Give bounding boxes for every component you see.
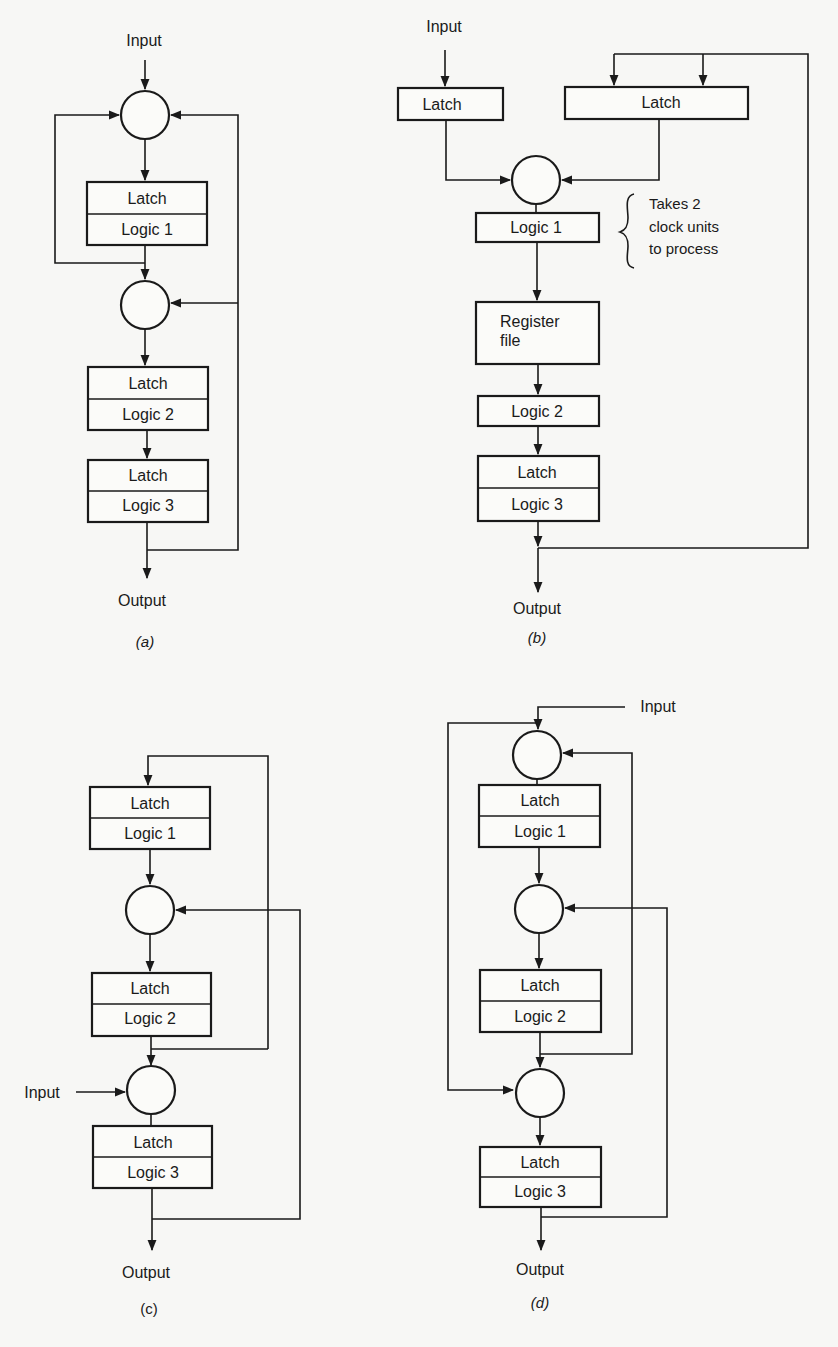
c-caption: (c) <box>140 1301 158 1316</box>
diagram-b <box>398 50 808 592</box>
c-merge-node-2 <box>127 1066 175 1114</box>
a-latch1-label: Latch <box>127 191 166 207</box>
d-logic1-label: Logic 1 <box>514 824 566 840</box>
b-caption: (b) <box>528 630 546 645</box>
b-brace-icon <box>620 194 634 268</box>
b-input-label: Input <box>426 19 462 35</box>
a-merge-node-2 <box>121 281 169 329</box>
a-logic3-label: Logic 3 <box>122 498 174 514</box>
d-merge-node-1 <box>513 731 561 779</box>
d-input-arrow <box>538 707 625 729</box>
a-input-label: Input <box>126 33 162 49</box>
b-right-latch-to-node <box>562 119 659 180</box>
c-logic1-label: Logic 1 <box>124 826 176 842</box>
d-logic2-label: Logic 2 <box>514 1009 566 1025</box>
b-logic3-label: Logic 3 <box>511 497 563 513</box>
b-timing-annotation: Takes 2 clock units to process <box>649 193 719 261</box>
d-output-label: Output <box>516 1262 564 1278</box>
d-latch2-label: Latch <box>520 978 559 994</box>
c-latch2-label: Latch <box>130 981 169 997</box>
b-logic2-label: Logic 2 <box>511 404 563 420</box>
c-output-label: Output <box>122 1265 170 1281</box>
a-latch2-label: Latch <box>128 376 167 392</box>
diagram-c <box>76 756 300 1250</box>
c-latch3-label: Latch <box>133 1135 172 1151</box>
a-latch3-label: Latch <box>128 468 167 484</box>
d-input-label: Input <box>640 699 676 715</box>
c-merge-node-1 <box>126 886 174 934</box>
b-right-latch-label: Latch <box>641 95 680 111</box>
d-merge-node-3 <box>516 1069 564 1117</box>
a-logic1-label: Logic 1 <box>121 222 173 238</box>
c-logic3-label: Logic 3 <box>127 1165 179 1181</box>
b-left-latch-to-node <box>446 120 510 180</box>
c-input-label: Input <box>24 1085 60 1101</box>
b-latch3-label: Latch <box>517 465 556 481</box>
b-register-file-line2: file <box>500 331 560 350</box>
a-logic2-label: Logic 2 <box>122 407 174 423</box>
d-merge-node-2 <box>515 885 563 933</box>
d-logic3-label: Logic 3 <box>514 1184 566 1200</box>
b-annotation-line2: clock units <box>649 216 719 239</box>
d-latch3-label: Latch <box>520 1155 559 1171</box>
a-caption: (a) <box>136 634 154 649</box>
c-logic2-label: Logic 2 <box>124 1011 176 1027</box>
b-annotation-line1: Takes 2 <box>649 193 719 216</box>
b-output-label: Output <box>513 601 561 617</box>
d-latch1-label: Latch <box>520 793 559 809</box>
a-output-label: Output <box>118 593 166 609</box>
b-left-latch-label: Latch <box>422 97 461 113</box>
d-caption: (d) <box>531 1295 549 1310</box>
b-register-file-label: Register file <box>500 312 560 350</box>
b-register-file-line1: Register <box>500 312 560 331</box>
b-merge-node <box>512 156 560 204</box>
b-annotation-line3: to process <box>649 238 719 261</box>
b-logic1-label: Logic 1 <box>510 220 562 236</box>
c-latch1-label: Latch <box>130 796 169 812</box>
a-merge-node-1 <box>121 91 169 139</box>
